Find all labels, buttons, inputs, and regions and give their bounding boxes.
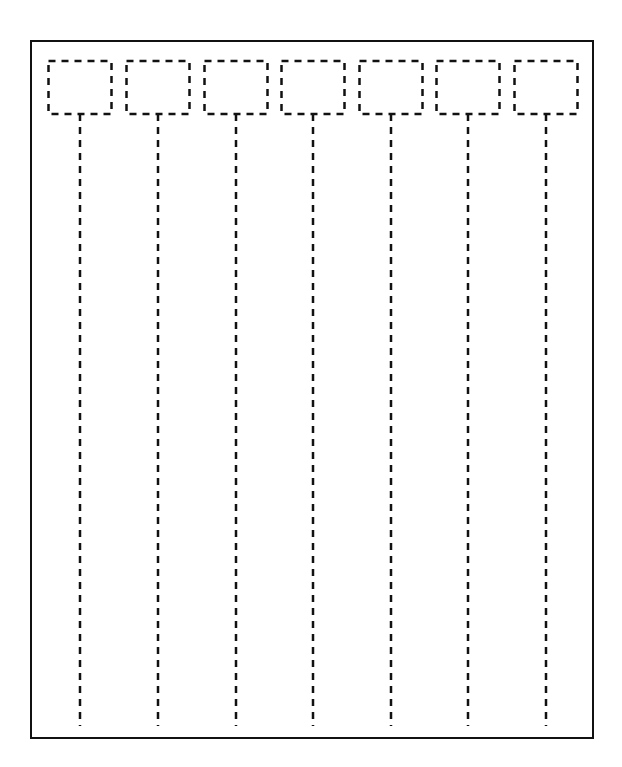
participant-6 — [437, 61, 500, 726]
participants-group — [49, 61, 578, 726]
participant-box — [49, 61, 112, 114]
participant-2 — [127, 61, 190, 726]
participant-7 — [515, 61, 578, 726]
participant-5 — [360, 61, 423, 726]
sequence-diagram — [0, 0, 622, 767]
participant-box — [205, 61, 268, 114]
participant-4 — [282, 61, 345, 726]
participant-1 — [49, 61, 112, 726]
participant-box — [437, 61, 500, 114]
participant-box — [360, 61, 423, 114]
participant-box — [515, 61, 578, 114]
participant-box — [127, 61, 190, 114]
participant-3 — [205, 61, 268, 726]
participant-box — [282, 61, 345, 114]
